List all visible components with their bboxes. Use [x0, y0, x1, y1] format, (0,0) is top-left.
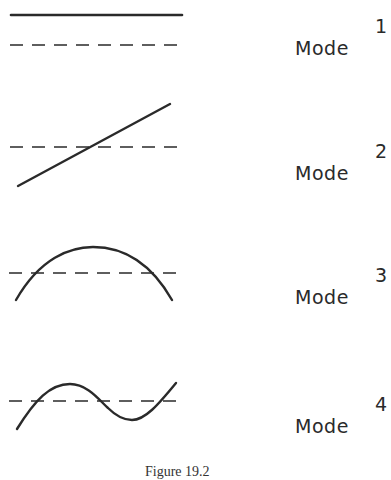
mode-4-label-text: Mode [295, 415, 349, 437]
mode-4-graphic [9, 383, 181, 429]
figure-caption: Figure 19.2 [145, 464, 210, 480]
mode-4-label: Mode 4 [282, 393, 349, 459]
mode-1-label-text: Mode [295, 37, 349, 59]
mode-3-number: 3 [375, 264, 388, 286]
mode-4-number: 4 [375, 393, 388, 415]
mode-2-graphic [10, 104, 182, 186]
mode-2-label: Mode 2 [282, 140, 349, 206]
mode-3-label-text: Mode [295, 286, 349, 308]
mode-2-label-text: Mode [295, 162, 349, 184]
mode-1-label: Mode 1 [282, 15, 349, 81]
mode-3-graphic [9, 247, 181, 300]
mode-2-number: 2 [375, 140, 388, 162]
mode-4-curve [17, 383, 176, 429]
mode-1-number: 1 [375, 15, 388, 37]
mode-2-curve [18, 104, 170, 186]
mode-3-label: Mode 3 [282, 264, 349, 330]
mode-1-graphic [10, 15, 182, 45]
